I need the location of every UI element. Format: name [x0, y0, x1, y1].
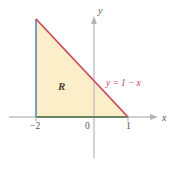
y-axis-label: y: [98, 6, 102, 16]
x-tick-label-neg2: −2: [30, 122, 41, 132]
equation-label: y = 1 − x: [106, 79, 141, 89]
x-tick-label-1: 1: [126, 122, 131, 132]
graph-figure: −2 0 1 x y R y = 1 − x: [0, 0, 173, 172]
x-axis-label: x: [162, 113, 166, 123]
x-tick-label-origin: 0: [85, 122, 90, 132]
x-axis-arrowhead: [150, 114, 158, 120]
region-label-r: R: [58, 81, 65, 92]
y-axis-arrowhead: [91, 16, 97, 24]
coordinate-plane-svg: [0, 0, 173, 172]
